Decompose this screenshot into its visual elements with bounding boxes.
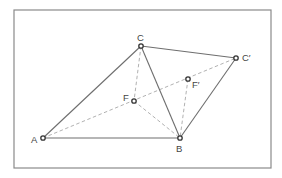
point-cprime-marker-icon [234,56,238,60]
point-label-a: A [31,134,38,145]
point-b-marker-icon [178,136,182,140]
point-f-marker-icon [132,99,136,103]
point-label-f: F [123,92,129,103]
point-label-cprime: C′ [242,52,251,63]
geometry-diagram: ABCC′FF′ [0,0,282,178]
point-c-marker-icon [139,44,143,48]
point-fprime-marker-icon [186,77,190,81]
point-label-c: C [137,32,144,43]
point-label-b: B [176,143,182,154]
point-label-fprime: F′ [192,79,200,90]
point-a-marker-icon [41,136,45,140]
